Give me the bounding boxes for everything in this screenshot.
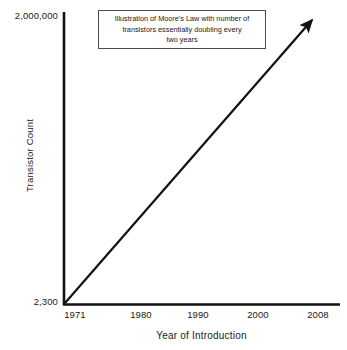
annotation-line-1: Illustration of Moore's Law with number … (115, 14, 249, 25)
trend-arrow-line (65, 20, 312, 303)
x-axis-tick-label-2008: 2008 (296, 309, 340, 320)
x-axis-title: Year of Introduction (63, 330, 340, 341)
x-axis-tick-label-2000: 2000 (236, 309, 280, 320)
x-axis-tick-label-1980: 1980 (119, 309, 163, 320)
y-axis-tick-label-top: 2,000,000 (0, 10, 58, 21)
annotation-line-2: transistors essentially doubling every (122, 25, 241, 36)
y-axis-title: Transistor Count (24, 86, 35, 226)
x-axis-tick-label-1971: 1971 (53, 309, 97, 320)
moores-law-chart: 2,000,000 2,300 Transistor Count 1971 19… (0, 0, 347, 350)
annotation-callout-box: Illustration of Moore's Law with number … (98, 10, 266, 49)
y-axis-tick-label-bottom: 2,300 (0, 296, 58, 307)
annotation-line-3: two years (166, 35, 197, 46)
x-axis-tick-label-1990: 1990 (176, 309, 220, 320)
